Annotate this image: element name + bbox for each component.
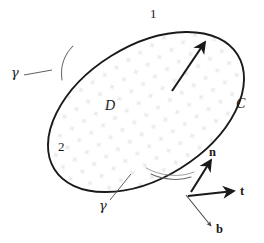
orientation-arc-upper-left	[62, 46, 73, 80]
tangent-vector-arrow	[188, 191, 234, 196]
label-gamma-upper: γ	[11, 66, 19, 79]
binormal-vector-arrow	[186, 195, 211, 226]
gamma-upper-leader-line	[24, 70, 52, 75]
region-interior-stipple	[0, 0, 264, 243]
label-side-one: 1	[150, 7, 157, 20]
label-normal-vector-n: n	[209, 146, 216, 159]
label-tangent-vector-t: t	[240, 185, 244, 198]
label-binormal-vector-b: b	[216, 223, 223, 236]
diagram-vector-layer	[0, 0, 264, 243]
math-figure-canvas: 1 2 D C γ γ n t b	[0, 0, 264, 243]
label-gamma-lower: γ	[99, 199, 107, 212]
normal-vector-arrow	[191, 160, 211, 192]
label-boundary-curve-C: C	[236, 97, 245, 111]
label-region-D: D	[105, 99, 115, 113]
label-side-two: 2	[58, 140, 65, 153]
